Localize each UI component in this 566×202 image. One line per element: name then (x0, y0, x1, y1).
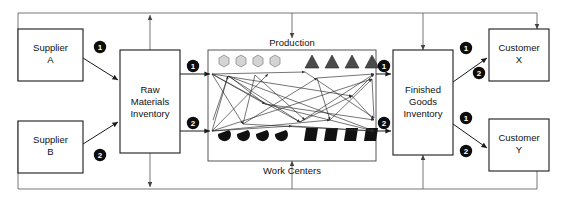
supplier-a-label-line1: Supplier (33, 42, 68, 53)
flow-finished-goods-to-customer-y (453, 124, 487, 148)
work-centers-label: Work Centers (263, 165, 321, 176)
customer-y-label-line2: Y (516, 144, 523, 155)
badge-prod-to-fg-upper: 1 (378, 60, 390, 72)
badge-rm-to-prod-upper: 1 (187, 60, 199, 72)
raw-materials-label-line1: Raw (140, 84, 159, 95)
supplier-a-label-line2: A (47, 54, 54, 65)
badge-label: 1 (98, 43, 103, 52)
diagram-canvas: Supplier A Supplier B Raw Materials Inve… (0, 0, 566, 202)
production-label: Production (269, 37, 314, 48)
badge-prod-to-fg-lower: 2 (378, 117, 390, 129)
badge-label: 2 (477, 69, 482, 78)
hexagon-icon (219, 55, 229, 67)
badge-rm-to-prod-lower: 2 (187, 117, 199, 129)
flow-supplier-a-to-raw-materials (83, 58, 118, 80)
finished-goods-label-line2: Goods (409, 96, 437, 107)
flow-arrow (83, 58, 118, 80)
badge-label: 2 (98, 151, 103, 160)
badge-label: 1 (464, 114, 469, 123)
customer-y-label-line1: Customer (498, 132, 539, 143)
hexagon-icon (253, 55, 263, 67)
badge-label: 1 (382, 62, 387, 71)
supplier-b-label-line2: B (47, 146, 53, 157)
node-customer-x[interactable]: Customer X (489, 29, 549, 81)
flow-arrow (83, 122, 118, 144)
finished-goods-label-line3: Inventory (403, 108, 442, 119)
badge-fg-to-cy-upper: 1 (460, 112, 472, 124)
finished-goods-label-line1: Finished (405, 84, 441, 95)
node-raw-materials-inventory[interactable]: Raw Materials Inventory (120, 50, 180, 153)
badge-label: 1 (191, 62, 196, 71)
badge-label: 2 (382, 119, 387, 128)
badge-supplier-a-to-rm: 1 (94, 41, 106, 53)
raw-materials-label-line2: Materials (131, 96, 170, 107)
node-supplier-a[interactable]: Supplier A (18, 29, 83, 81)
badge-label: 2 (464, 147, 469, 156)
raw-materials-label-line3: Inventory (130, 108, 169, 119)
flow-arrow (453, 124, 487, 148)
supplier-b-label-line1: Supplier (33, 134, 68, 145)
badge-label: 1 (464, 44, 469, 53)
hexagon-icon (236, 55, 246, 67)
flow-supplier-b-to-raw-materials (83, 122, 118, 144)
supply-chain-diagram: Supplier A Supplier B Raw Materials Inve… (0, 0, 566, 202)
node-customer-y[interactable]: Customer Y (489, 119, 549, 171)
customer-x-label-line1: Customer (498, 42, 539, 53)
badge-fg-to-cx-lower: 2 (473, 67, 485, 79)
hexagon-icon (270, 55, 280, 67)
parallelogram-icon (304, 128, 318, 141)
badge-supplier-b-to-rm: 2 (94, 149, 106, 161)
node-finished-goods-inventory[interactable]: Finished Goods Inventory (393, 50, 453, 155)
parallelogram-icon (324, 128, 338, 141)
badge-fg-to-cx-upper: 1 (460, 42, 472, 54)
badge-label: 2 (191, 119, 196, 128)
badge-fg-to-cy-lower: 2 (460, 145, 472, 157)
customer-x-label-line2: X (516, 54, 523, 65)
node-supplier-b[interactable]: Supplier B (18, 121, 83, 173)
